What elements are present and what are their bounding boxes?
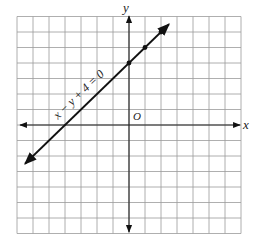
x-axis-label: x — [242, 117, 249, 132]
equation-label: x − y + 4 = 0 — [50, 67, 107, 123]
marked-point — [127, 61, 132, 66]
origin-label: O — [133, 110, 141, 122]
coordinate-plane: x y O x − y + 4 = 0 — [0, 0, 261, 250]
marked-point — [159, 30, 164, 35]
y-axis-label: y — [121, 0, 129, 15]
marked-point — [143, 45, 148, 50]
